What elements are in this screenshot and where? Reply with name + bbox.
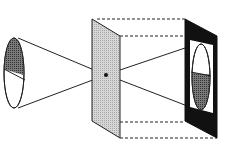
pinhole-plate [92,19,120,138]
image-screen [185,19,217,138]
object-ellipse [4,38,25,108]
light-rays-out [120,47,190,107]
pinhole-camera-diagram [0,0,225,147]
pinhole [104,73,108,77]
